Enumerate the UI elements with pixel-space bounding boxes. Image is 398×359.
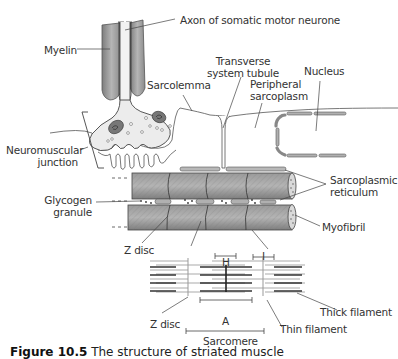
myofibril-lower	[112, 205, 296, 231]
label-i-band: I	[262, 250, 265, 262]
label-neuromuscular-junction: Neuromuscular junction	[6, 144, 78, 168]
label-myelin: Myelin	[44, 44, 77, 56]
label-nucleus: Nucleus	[304, 65, 344, 77]
label-glycogen-line2: granule	[40, 206, 92, 218]
label-nmj-line2: junction	[6, 156, 78, 168]
label-peripheral-line2: sarcoplasm	[250, 90, 308, 102]
label-thin-filament: Thin filament	[280, 323, 347, 335]
label-h-band: H	[222, 256, 230, 268]
glycogen-strip	[112, 199, 276, 204]
junctional-folds	[98, 150, 176, 169]
figure-caption: Figure 10.5 The structure of striated mu…	[10, 345, 284, 359]
label-thick-filament: Thick filament	[320, 306, 392, 318]
label-myofibril: Myofibril	[322, 221, 365, 233]
sarcoplasmic-reticulum-top	[180, 167, 286, 171]
label-sarcolemma: Sarcolemma	[147, 79, 211, 91]
label-axon: Axon of somatic motor neurone	[180, 14, 340, 26]
figure-number: Figure 10.5	[10, 345, 87, 359]
label-sr-line2: reticulum	[330, 186, 397, 198]
label-z-disc-upper: Z disc	[124, 244, 154, 256]
axon	[118, 22, 132, 100]
label-nmj-line1: Neuromuscular	[6, 144, 78, 156]
label-transverse-line1: Transverse	[205, 55, 281, 67]
label-a-band: A	[222, 315, 229, 327]
axon-terminal	[89, 100, 171, 151]
label-glycogen-line1: Glycogen	[40, 194, 92, 206]
label-z-disc-lower: Z disc	[150, 318, 180, 330]
t-tubule	[218, 116, 230, 168]
label-transverse-tubule: Transverse system tubule	[205, 55, 281, 79]
label-peripheral-sarcoplasm: Peripheral sarcoplasm	[250, 78, 308, 102]
figure-caption-text: The structure of striated muscle	[91, 345, 284, 359]
label-glycogen-granule: Glycogen granule	[40, 194, 92, 218]
label-sr-line1: Sarcoplasmic	[330, 174, 397, 186]
nucleus	[276, 112, 346, 157]
label-sarcoplasmic-reticulum: Sarcoplasmic reticulum	[330, 174, 397, 198]
myofibril-upper	[112, 173, 296, 199]
label-peripheral-line1: Peripheral	[250, 78, 308, 90]
